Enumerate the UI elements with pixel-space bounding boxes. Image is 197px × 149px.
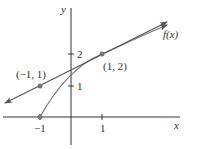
y-tick-label-2: 2 [77, 48, 83, 60]
point-label-neg1-1: (−1, 1) [16, 68, 46, 81]
point-label-1-2: (1, 2) [103, 60, 127, 73]
y-axis-label: y [60, 3, 66, 15]
x-axis-label: x [173, 119, 179, 131]
x-tick-label-1: 1 [100, 122, 106, 134]
point-neg1-1 [38, 84, 43, 89]
x-tick-label-neg1: −1 [34, 122, 46, 134]
point-1-2 [100, 52, 105, 57]
y-tick-label-1: 1 [77, 80, 83, 92]
point-neg1-0 [38, 115, 43, 120]
graph-canvas: y x −1 1 1 2 (−1, 1) (1, 2) f(x) [0, 0, 197, 149]
curve-label-fx: f(x) [163, 28, 179, 41]
